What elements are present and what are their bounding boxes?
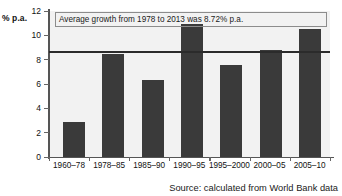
x-tick-mark-7	[330, 157, 331, 161]
source-note: Source: calculated from World Bank data	[169, 183, 338, 193]
annotation-text: Average growth from 1978 to 2013 was 8.7…	[59, 15, 243, 24]
x-tick-label-2005-10: 2005–10	[290, 161, 330, 170]
bar-chart-figure: % p.a. 0 2 4 6 8 10 12 Average growth fr…	[0, 0, 342, 196]
y-tick-label-12: 12	[15, 6, 41, 16]
bar-2000-05	[260, 50, 282, 157]
bar-2005-10	[299, 29, 321, 157]
x-tick-label-2000-05: 2000–05	[250, 161, 290, 170]
bar-1990-95	[181, 24, 203, 157]
x-tick-label-1990-95: 1990–95	[169, 161, 209, 170]
x-tick-label-1995-2000: 1995–2000	[207, 161, 251, 170]
y-tick-label-2: 2	[15, 128, 41, 138]
x-tick-label-1985-90: 1985–90	[129, 161, 169, 170]
bar-1978-85	[102, 54, 124, 157]
bars-container	[49, 11, 330, 157]
bar-1960-78	[63, 122, 85, 157]
bar-1985-90	[142, 80, 164, 157]
y-tick-label-6: 6	[15, 79, 41, 89]
x-tick-label-1960-78: 1960–78	[49, 161, 89, 170]
y-tick-label-8: 8	[15, 55, 41, 65]
average-growth-reference-line	[49, 51, 330, 53]
bar-1995-2000	[220, 65, 242, 157]
y-tick-label-0: 0	[15, 152, 41, 162]
x-tick-label-1978-85: 1978–85	[89, 161, 129, 170]
y-tick-label-4: 4	[15, 103, 41, 113]
y-tick-label-10: 10	[15, 30, 41, 40]
